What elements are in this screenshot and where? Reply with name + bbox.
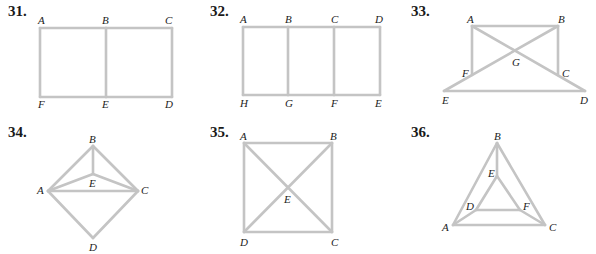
vertex-label-E: E [101, 98, 109, 110]
vertex-label-C: C [549, 221, 557, 233]
problem-number: 36. [411, 124, 430, 140]
problem-number: 31. [8, 3, 27, 19]
vertex-label-A: A [441, 221, 449, 233]
vertex-label-A: A [36, 184, 44, 196]
vertex-label-F: F [522, 200, 530, 212]
vertex-label-A: A [239, 13, 247, 25]
diagram-36 [453, 143, 545, 225]
vertex-label-E: E [441, 94, 449, 106]
vertex-label-B: B [102, 14, 109, 26]
vertex-label-D: D [374, 13, 383, 25]
vertex-label-A: A [37, 14, 45, 26]
vertex-label-B: B [558, 13, 565, 25]
vertex-label-D: D [239, 236, 248, 248]
vertex-label-A: A [466, 13, 474, 25]
edge-BC [93, 146, 138, 191]
edges-layer [40, 26, 585, 238]
diagram-canvas: ABCFEDABCDHGFEABGFCEDBEACDABEDCBEDFAC 31… [0, 0, 596, 254]
vertex-label-H: H [239, 97, 249, 109]
vertex-label-E: E [88, 177, 96, 189]
vertex-label-F: F [461, 67, 469, 79]
edge-DC [93, 191, 138, 238]
vertex-label-C: C [141, 184, 149, 196]
problem-number: 35. [210, 124, 229, 140]
problem-number: 34. [8, 124, 27, 140]
diagram-31 [40, 28, 172, 97]
diagram-35 [244, 143, 332, 232]
vertex-label-D: D [164, 98, 173, 110]
vertex-label-G: G [512, 56, 520, 68]
edge-AB [48, 146, 93, 191]
diagram-34 [48, 146, 138, 238]
vertex-label-C: C [562, 67, 570, 79]
vertex-label-C: C [331, 236, 339, 248]
vertex-label-B: B [89, 133, 96, 145]
diagram-32 [243, 27, 380, 95]
edge-AD [48, 191, 93, 238]
vertex-label-G: G [285, 97, 293, 109]
vertex-label-A: A [239, 130, 247, 142]
edge-ED [476, 176, 497, 210]
edge-AD [472, 26, 585, 91]
edge-EB [444, 26, 558, 91]
problem-numbers-layer: 31.32.33.34.35.36. [8, 3, 430, 140]
problem-number: 32. [210, 3, 229, 19]
vertex-label-D: D [465, 200, 474, 212]
problem-number: 33. [411, 3, 430, 19]
vertex-label-F: F [37, 98, 45, 110]
edge-EF [497, 176, 520, 210]
vertex-label-D: D [88, 241, 97, 253]
vertex-label-E: E [374, 97, 382, 109]
vertex-label-D: D [579, 94, 588, 106]
edge-AB [453, 143, 497, 225]
labels-layer: ABCFEDABCDHGFEABGFCEDBEACDABEDCBEDFAC [36, 13, 588, 253]
edge-BC [497, 143, 545, 225]
vertex-label-B: B [285, 13, 292, 25]
vertex-label-C: C [331, 13, 339, 25]
vertex-label-E: E [487, 167, 495, 179]
vertex-label-B: B [494, 130, 501, 142]
vertex-label-F: F [330, 97, 338, 109]
vertex-label-E: E [283, 193, 291, 205]
vertex-label-B: B [330, 130, 337, 142]
vertex-label-C: C [165, 14, 173, 26]
